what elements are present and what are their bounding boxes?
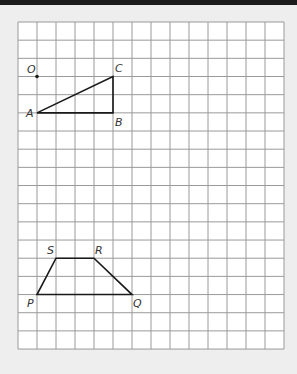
label-B: B <box>115 116 123 129</box>
grid <box>18 22 284 349</box>
label-C: C <box>115 62 123 75</box>
coordinate-grid-figure: OABCSRPQ <box>0 0 297 374</box>
point-O-dot <box>35 75 39 79</box>
label-O: O <box>27 63 36 76</box>
label-A: A <box>25 107 34 120</box>
label-R: R <box>95 244 103 257</box>
label-Q: Q <box>133 297 142 310</box>
label-P: P <box>27 297 34 310</box>
label-S: S <box>47 244 54 257</box>
